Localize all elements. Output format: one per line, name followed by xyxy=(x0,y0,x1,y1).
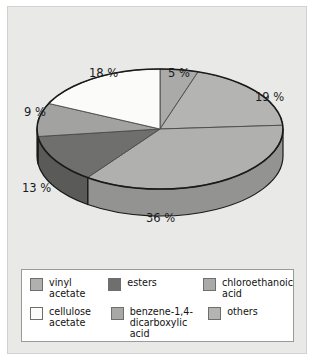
legend-label-vinyl-acetate: vinyl acetate xyxy=(49,277,85,299)
legend-item-benzene-dicarboxylic-acid[interactable]: benzene-1,4- dicarboxylic acid xyxy=(111,306,209,340)
legend-swatch-cellulose-acetate xyxy=(30,307,43,320)
legend: vinyl acetate esters chloroethanoic acid… xyxy=(21,269,294,342)
legend-label-others: others xyxy=(227,306,258,317)
legend-row-2: cellulose acetate benzene-1,4- dicarboxy… xyxy=(30,306,287,335)
legend-swatch-chloroethanoic-acid xyxy=(203,278,216,291)
pie-label-cellulose-acetate: 18 % xyxy=(89,68,118,80)
legend-swatch-esters xyxy=(108,278,121,291)
legend-item-others[interactable]: others xyxy=(208,306,287,320)
pie-label-esters: 13 % xyxy=(22,183,51,195)
legend-item-esters[interactable]: esters xyxy=(108,277,203,291)
figure-root: 5 % 19 % 36 % 13 % 9 % 18 % vinyl acetat… xyxy=(0,0,315,361)
legend-item-cellulose-acetate[interactable]: cellulose acetate xyxy=(30,306,111,328)
pie-label-benzene-dicarboxylic-acid: 9 % xyxy=(24,107,46,119)
legend-label-esters: esters xyxy=(127,277,157,288)
legend-row-1: vinyl acetate esters chloroethanoic acid xyxy=(30,277,287,306)
legend-item-vinyl-acetate[interactable]: vinyl acetate xyxy=(30,277,108,299)
legend-label-cellulose-acetate: cellulose acetate xyxy=(49,306,91,328)
figure-panel: 5 % 19 % 36 % 13 % 9 % 18 % vinyl acetat… xyxy=(7,6,307,354)
legend-swatch-others xyxy=(208,307,221,320)
legend-item-chloroethanoic-acid[interactable]: chloroethanoic acid xyxy=(203,277,287,299)
pie-label-others: 36 % xyxy=(146,213,175,225)
legend-label-benzene-dicarboxylic-acid: benzene-1,4- dicarboxylic acid xyxy=(130,306,209,340)
legend-label-chloroethanoic-acid: chloroethanoic acid xyxy=(222,277,293,299)
pie-chart: 5 % 19 % 36 % 13 % 9 % 18 % xyxy=(8,7,308,263)
pie-label-vinyl-acetate: 5 % xyxy=(168,68,190,80)
legend-swatch-benzene-dicarboxylic-acid xyxy=(111,307,124,320)
legend-swatch-vinyl-acetate xyxy=(30,278,43,291)
pie-label-chloroethanoic-acid: 19 % xyxy=(255,92,284,104)
